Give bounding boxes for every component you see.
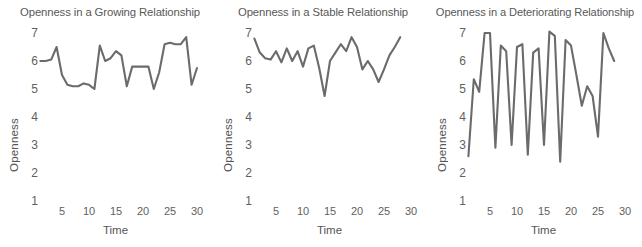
x-tick-30: 30 xyxy=(187,205,207,217)
y-axis-label: Openness xyxy=(220,95,236,195)
x-tick-30: 30 xyxy=(615,205,635,217)
y-tick-2: 2 xyxy=(238,166,252,180)
data-series-line xyxy=(40,37,197,89)
y-tick-4: 4 xyxy=(452,110,466,124)
panel-growing-relationship: Openness in a Growing Relationship Openn… xyxy=(0,0,214,247)
y-tick-6: 6 xyxy=(24,54,38,68)
x-tick-20: 20 xyxy=(133,205,153,217)
x-axis-label: Time xyxy=(456,224,631,236)
x-tick-10: 10 xyxy=(293,205,313,217)
y-tick-4: 4 xyxy=(238,110,252,124)
y-tick-2: 2 xyxy=(452,166,466,180)
panel-stable-relationship: Openness in a Stable Relationship Openne… xyxy=(214,0,428,247)
y-tick-1: 1 xyxy=(238,194,252,208)
x-axis-label: Time xyxy=(242,224,417,236)
y-tick-7: 7 xyxy=(238,26,252,40)
y-tick-5: 5 xyxy=(24,82,38,96)
x-tick-25: 25 xyxy=(374,205,394,217)
x-tick-15: 15 xyxy=(320,205,340,217)
x-tick-25: 25 xyxy=(160,205,180,217)
x-tick-15: 15 xyxy=(534,205,554,217)
y-tick-7: 7 xyxy=(452,26,466,40)
y-tick-1: 1 xyxy=(24,194,38,208)
x-tick-10: 10 xyxy=(507,205,527,217)
x-axis-label: Time xyxy=(28,224,203,236)
y-tick-6: 6 xyxy=(452,54,466,68)
x-tick-20: 20 xyxy=(347,205,367,217)
y-tick-1: 1 xyxy=(452,194,466,208)
x-tick-10: 10 xyxy=(79,205,99,217)
y-tick-3: 3 xyxy=(452,138,466,152)
x-tick-15: 15 xyxy=(106,205,126,217)
y-axis-label: Openness xyxy=(434,95,450,195)
y-axis-label: Openness xyxy=(6,95,22,195)
y-tick-3: 3 xyxy=(238,138,252,152)
x-tick-5: 5 xyxy=(480,205,500,217)
three-panel-line-chart-figure: Openness in a Growing Relationship Openn… xyxy=(0,0,642,247)
panel-title: Openness in a Stable Relationship xyxy=(214,6,428,18)
y-tick-5: 5 xyxy=(452,82,466,96)
data-series-line xyxy=(254,37,400,96)
y-tick-5: 5 xyxy=(238,82,252,96)
panel-title: Openness in a Growing Relationship xyxy=(0,6,214,18)
panel-deteriorating-relationship: Openness in a Deteriorating Relationship… xyxy=(428,0,642,247)
y-tick-2: 2 xyxy=(24,166,38,180)
data-series-line xyxy=(468,32,614,162)
y-tick-6: 6 xyxy=(238,54,252,68)
x-tick-30: 30 xyxy=(401,205,421,217)
y-tick-7: 7 xyxy=(24,26,38,40)
x-tick-5: 5 xyxy=(52,205,72,217)
x-tick-20: 20 xyxy=(561,205,581,217)
x-tick-5: 5 xyxy=(266,205,286,217)
y-tick-3: 3 xyxy=(24,138,38,152)
x-tick-25: 25 xyxy=(588,205,608,217)
y-tick-4: 4 xyxy=(24,110,38,124)
panel-title: Openness in a Deteriorating Relationship xyxy=(428,6,642,18)
